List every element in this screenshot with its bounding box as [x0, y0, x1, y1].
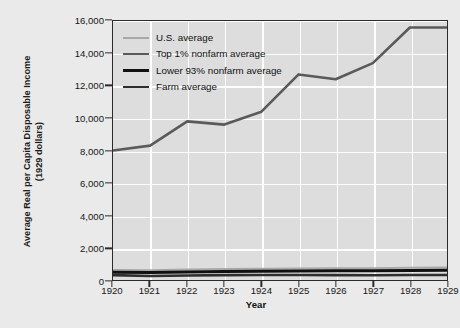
x-axis-tick-mark — [223, 281, 224, 287]
legend-item-label: U.S. average — [156, 31, 213, 44]
y-axis-tick-mark — [105, 182, 112, 183]
chart-figure: Average Real per Capita Disposable Incom… — [0, 0, 460, 328]
y-axis-tick-mark — [105, 19, 112, 20]
legend-swatch-icon — [123, 53, 149, 55]
legend-swatch-icon — [123, 86, 149, 88]
y-axis-tick-label: 8,000 — [42, 145, 104, 156]
x-axis-tick-mark — [261, 281, 262, 287]
y-axis-tick-label: 16,000 — [42, 15, 104, 26]
legend-swatch-icon — [123, 37, 149, 39]
legend-item: U.S. average — [123, 31, 282, 44]
plot-area: U.S. averageTop 1% nonfarm averageLower … — [112, 20, 448, 281]
data-line — [113, 275, 447, 276]
legend-item: Lower 93% nonfarm average — [123, 64, 282, 77]
y-axis-tick-label: 12,000 — [42, 80, 104, 91]
x-axis-tick-mark — [373, 281, 374, 287]
x-axis-title: Year — [0, 299, 460, 310]
legend-item: Farm average — [123, 80, 282, 93]
y-axis-tick-mark — [105, 85, 112, 86]
y-axis-tick-label: 10,000 — [42, 112, 104, 123]
y-axis-tick-mark — [105, 117, 112, 118]
x-axis-tick-mark — [335, 281, 336, 287]
legend-swatch-icon — [123, 69, 149, 72]
x-axis-tick-mark — [186, 281, 187, 287]
x-axis-title-text: Year — [246, 299, 266, 310]
x-axis-tick-mark — [149, 281, 150, 287]
y-axis-tick-label: 2,000 — [42, 243, 104, 254]
chart-legend: U.S. averageTop 1% nonfarm averageLower … — [123, 31, 282, 93]
y-axis-tick-mark — [105, 215, 112, 216]
x-axis-tick-mark — [298, 281, 299, 287]
y-axis-tick-label: 4,000 — [42, 210, 104, 221]
x-axis-tick-mark — [410, 281, 411, 287]
y-axis-tick-mark — [105, 248, 112, 249]
legend-item-label: Farm average — [156, 80, 217, 93]
x-axis-tick-label: 1929 — [425, 285, 460, 296]
y-axis-tick-mark — [105, 150, 112, 151]
legend-item-label: Lower 93% nonfarm average — [156, 64, 282, 77]
y-axis-tick-label: 6,000 — [42, 178, 104, 189]
legend-item-label: Top 1% nonfarm average — [156, 47, 265, 60]
x-axis-tick-mark — [447, 281, 448, 287]
x-axis-tick-mark — [111, 281, 112, 287]
y-axis-tick-label: 14,000 — [42, 47, 104, 58]
y-axis-tick-mark — [105, 52, 112, 53]
legend-item: Top 1% nonfarm average — [123, 47, 282, 60]
